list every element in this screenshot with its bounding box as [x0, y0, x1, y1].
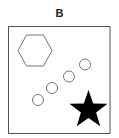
circle-shape-2: [47, 83, 58, 94]
hexagon-shape: [18, 35, 52, 66]
diagram-canvas: [0, 0, 119, 138]
star-icon: [69, 90, 107, 126]
circle-shape-3: [64, 71, 75, 82]
circle-shape-4: [80, 59, 91, 70]
circle-shape-1: [33, 95, 44, 106]
